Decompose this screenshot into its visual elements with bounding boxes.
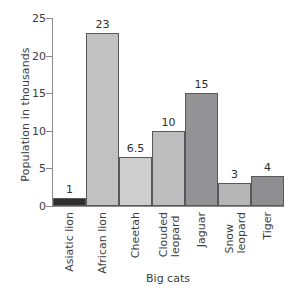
y-axis-tick-label: 10 [24, 124, 46, 137]
bar-chart: Population in thousands 0510152025 1236.… [0, 0, 293, 291]
bar[interactable] [251, 176, 284, 206]
x-axis-category-label-line: Tiger [261, 212, 274, 240]
x-axis-category-label-line: African lion [96, 212, 109, 274]
x-axis-label-slot: Tiger [251, 206, 284, 270]
x-axis-label-slot: African lion [86, 206, 119, 270]
x-axis-category-label-line: leopard [169, 212, 181, 257]
bar-group: 10 [152, 18, 185, 206]
x-axis-category-label: Tiger [262, 212, 274, 240]
y-axis-tick-label: 15 [24, 87, 46, 100]
x-axis-category-label: Cheetah [130, 212, 142, 258]
x-axis-category-label: Asiatic lion [64, 212, 76, 272]
x-axis-label-slot: Asiatic lion [53, 206, 86, 270]
x-axis-category-label-line: Asiatic lion [63, 212, 76, 272]
x-axis-category-label-line: Snow [222, 224, 235, 254]
x-axis-title: Big cats [52, 272, 284, 285]
x-axis-category-label-line: leopard [235, 212, 247, 254]
plot-area: 1236.5101534 [53, 18, 284, 206]
x-axis-category-label-line: Cheetah [129, 212, 142, 258]
x-axis-category-label-line: Clouded [156, 212, 169, 257]
y-axis-tick-label: 0 [24, 200, 46, 213]
x-axis-category-label: Jaguar [196, 212, 208, 247]
bar[interactable] [218, 183, 251, 206]
bar-group: 23 [86, 18, 119, 206]
bar-group: 6.5 [119, 18, 152, 206]
bar[interactable] [53, 198, 86, 206]
x-axis-category-label: Cloudedleopard [157, 212, 180, 257]
bar-group: 1 [53, 18, 86, 206]
x-axis-category-labels: Asiatic lionAfrican lionCheetahCloudedle… [53, 206, 284, 270]
x-axis-category-label-line: Jaguar [195, 212, 208, 247]
bar[interactable] [119, 157, 152, 206]
bar[interactable] [185, 93, 218, 206]
bar[interactable] [152, 131, 185, 206]
bar-group: 3 [218, 18, 251, 206]
x-axis-label-slot: Jaguar [185, 206, 218, 270]
x-axis-category-label: Snowleopard [223, 212, 246, 254]
y-axis-tick-label: 20 [24, 49, 46, 62]
x-axis-category-label: African lion [97, 212, 109, 274]
x-axis-label-slot: Snowleopard [218, 206, 251, 270]
bar-value-label: 4 [242, 161, 293, 174]
y-axis-tick-label: 5 [24, 162, 46, 175]
x-axis-label-slot: Cloudedleopard [152, 206, 185, 270]
bar-group: 4 [251, 18, 284, 206]
y-axis-tick-label: 25 [24, 12, 46, 25]
y-axis-tick-labels: 0510152025 [24, 18, 46, 206]
bar[interactable] [86, 33, 119, 206]
x-axis-label-slot: Cheetah [119, 206, 152, 270]
